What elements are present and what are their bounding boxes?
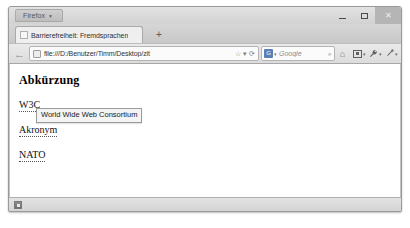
page-viewport: Abkürzung W3C Akronym NATO World Wide We… — [9, 64, 401, 197]
panel-icon — [353, 50, 362, 58]
abbreviation-tooltip: World Wide Web Consortium — [36, 108, 142, 123]
minimize-icon — [339, 18, 346, 19]
minimize-button[interactable] — [331, 7, 353, 24]
new-tab-button[interactable]: + — [149, 27, 169, 42]
close-icon: ✕ — [385, 11, 392, 20]
tab-title: Barrierefreiheit: Fremdsprachen — [31, 32, 128, 39]
plus-icon: + — [156, 30, 162, 40]
abbreviation-line: Akronym — [19, 124, 400, 136]
page-content: Abkürzung W3C Akronym NATO World Wide We… — [10, 64, 400, 197]
abbr-nato[interactable]: NATO — [19, 149, 45, 162]
chevron-down-icon[interactable]: ▾ — [274, 51, 277, 57]
addon-status-icon[interactable] — [14, 201, 22, 209]
chevron-down-icon: ▼ — [48, 10, 53, 22]
search-icon[interactable]: ⌕ — [328, 50, 332, 58]
search-input[interactable]: Google — [279, 50, 328, 57]
pencil-icon — [385, 49, 394, 58]
google-engine-icon[interactable]: G — [264, 49, 273, 58]
page-title: Abkürzung — [19, 73, 400, 88]
back-arrow-icon: ← — [14, 48, 25, 60]
abbreviation-line: NATO — [19, 149, 400, 161]
home-button[interactable]: ⌂ — [335, 46, 350, 61]
window-controls: ✕ — [331, 7, 401, 24]
home-icon: ⌂ — [340, 49, 345, 59]
app-menu-label: Firefox — [23, 12, 45, 19]
reload-icon[interactable]: ⟳ — [248, 50, 256, 58]
tab-strip: Barrierefreiheit: Fremdsprachen + — [9, 24, 401, 43]
maximize-icon — [361, 13, 368, 19]
tab-barrierefreiheit[interactable]: Barrierefreiheit: Fremdsprachen — [15, 26, 143, 43]
browser-window: Firefox▼ ✕ Barrierefreiheit: Fremdsprach… — [8, 6, 402, 212]
search-bar[interactable]: G ▾ Google ⌕ — [261, 46, 335, 61]
favicon-icon — [20, 31, 28, 39]
abbr-akronym[interactable]: Akronym — [19, 124, 57, 137]
navigation-toolbar: ← file:///D:/Benutzer/Timm/Desktop/zit ☆… — [9, 43, 401, 64]
close-button[interactable]: ✕ — [375, 7, 401, 24]
firefox-app-menu-button[interactable]: Firefox▼ — [15, 9, 63, 22]
url-input[interactable]: file:///D:/Benutzer/Timm/Desktop/zit — [44, 50, 234, 57]
chevron-down-icon[interactable]: ▾ — [395, 51, 398, 57]
bookmark-star-icon[interactable]: ☆ — [234, 50, 242, 58]
title-bar: Firefox▼ ✕ — [9, 7, 401, 24]
wrench-icon — [369, 49, 378, 58]
status-bar — [9, 197, 401, 211]
back-button[interactable]: ← — [12, 46, 27, 61]
site-identity-icon — [33, 50, 41, 58]
url-bar[interactable]: file:///D:/Benutzer/Timm/Desktop/zit ☆ ▾… — [29, 46, 259, 61]
maximize-button[interactable] — [353, 7, 375, 24]
